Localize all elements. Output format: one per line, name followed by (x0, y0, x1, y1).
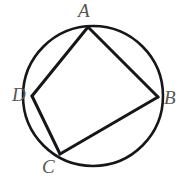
geometry-canvas (0, 0, 186, 185)
vertex-label-d: D (12, 85, 26, 104)
chord-cd (32, 96, 60, 154)
vertex-label-c: C (42, 157, 55, 176)
circumscribed-circle (23, 26, 163, 166)
geometry-figure: A B C D (0, 0, 186, 185)
vertex-label-b: B (164, 88, 176, 107)
vertex-label-a: A (78, 1, 90, 20)
chord-da (32, 27, 88, 96)
chord-ab (88, 27, 158, 97)
